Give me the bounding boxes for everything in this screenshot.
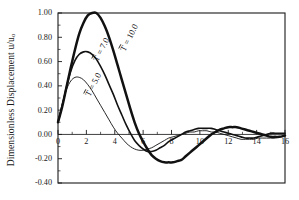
x-tick-label: 2 [84, 137, 88, 146]
series-annotation-text: T = 10.0 [118, 22, 140, 53]
y-tick-label: 0.60 [38, 57, 52, 66]
y-tick-label: 0.20 [38, 106, 52, 115]
series-annotation: T = 5.0 [83, 71, 103, 98]
x-tick-label: 0 [56, 137, 60, 146]
figure-container: -0.40-0.200.000.200.400.600.801.00 02468… [0, 0, 299, 200]
x-tick-label: 16 [281, 137, 289, 146]
y-tick-labels: -0.40-0.200.000.200.400.600.801.00 [35, 8, 52, 187]
series-annotations: T = 10.0T = 7.0T = 5.0 [83, 22, 140, 98]
x-tick-label: 12 [224, 137, 232, 146]
plot-frame [58, 13, 285, 183]
series-annotation-text: T = 5.0 [83, 71, 103, 98]
x-tick-label: 4 [113, 137, 117, 146]
axis-ticks [58, 13, 285, 183]
y-tick-label: -0.40 [35, 178, 52, 187]
y-tick-label: 0.00 [38, 130, 52, 139]
y-tick-label: 0.40 [38, 81, 52, 90]
chart-svg: -0.40-0.200.000.200.400.600.801.00 02468… [0, 0, 299, 200]
y-tick-label: -0.20 [35, 154, 52, 163]
series-annotation: T = 7.0 [91, 36, 111, 63]
y-tick-label: 1.00 [38, 8, 52, 17]
y-tick-label: 0.80 [38, 33, 52, 42]
series-annotation-text: T = 7.0 [91, 36, 111, 63]
series-annotation: T = 10.0 [118, 22, 140, 53]
